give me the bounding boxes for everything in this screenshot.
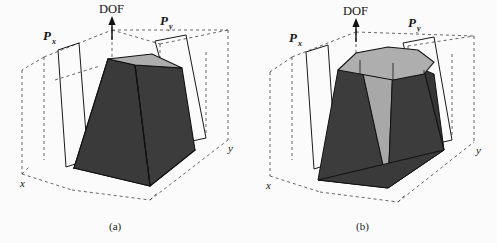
dashed-diag-left-top: [22, 57, 44, 70]
axis-y-label-b: y: [475, 144, 481, 156]
figure-container: DOF P x P y: [0, 0, 497, 243]
dof-arrow-a: [108, 16, 115, 40]
dashed-floor-5: [150, 192, 158, 200]
profile-px-label-a: P: [43, 28, 52, 43]
dof-arrow-b: [352, 18, 359, 42]
dashed-rail-2: [356, 32, 474, 36]
caption-b: (b): [356, 220, 369, 232]
axis-y-label-a: y: [227, 142, 233, 154]
profile-px-label-b: P: [289, 30, 298, 45]
solid-frustum-octagonal: [318, 47, 444, 188]
dashed-floor-2: [72, 190, 150, 200]
dashed-small-1: [55, 66, 100, 80]
panel-b: DOF P x P y: [265, 4, 481, 202]
axis-x-label-b: x: [265, 179, 271, 191]
panel-a: DOF P x P y: [19, 2, 233, 200]
technical-diagram-svg: DOF P x P y: [0, 0, 497, 243]
profile-py-label-b: P: [408, 15, 417, 30]
caption-a: (a): [109, 220, 121, 232]
axis-x-label-a: x: [19, 177, 25, 189]
dashed-floor-4: [22, 166, 30, 174]
dashed-floor-1: [270, 176, 320, 192]
dashed-top-link: [112, 30, 160, 44]
profile-py-label-a: P: [160, 13, 169, 28]
profile-py-subscript-b: y: [416, 24, 421, 33]
dashed-rail-3: [160, 30, 228, 44]
profile-px-subscript-a: x: [51, 37, 56, 46]
profile-px-subscript-b: x: [297, 39, 302, 48]
profile-py-subscript-a: y: [168, 22, 173, 31]
dashed-rail-3: [408, 36, 474, 46]
dashed-diag-left-top: [270, 57, 292, 72]
solid-frustum-square: [74, 54, 195, 186]
dashed-floor-1: [22, 174, 72, 190]
dashed-floor-4: [398, 194, 406, 202]
dof-label-b: DOF: [343, 4, 368, 18]
dof-label-a: DOF: [99, 2, 124, 16]
dashed-floor-2: [320, 192, 398, 202]
